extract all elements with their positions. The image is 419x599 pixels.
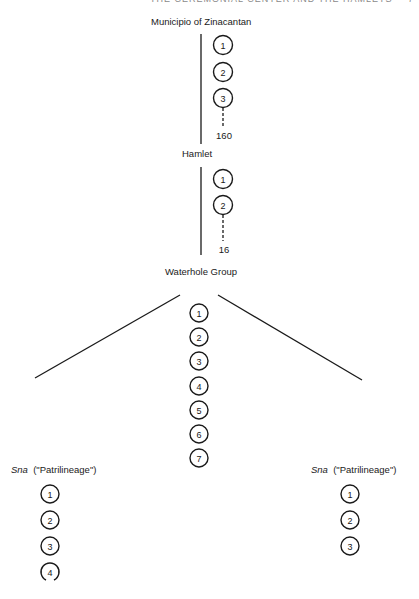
svg-text:1: 1 [196, 309, 201, 319]
unit-circle: 2 [190, 328, 208, 346]
sna-right-units: 1 2 3 [341, 485, 359, 555]
branch-right-line [218, 295, 362, 380]
unit-circle: 3 [41, 537, 59, 555]
unit-circle: 5 [190, 401, 208, 419]
svg-text:2: 2 [220, 201, 225, 211]
svg-text:2: 2 [47, 516, 52, 526]
kinship-hierarchy-diagram: 1 2 3 160 1 2 16 1 2 3 4 5 6 7 1 2 3 4 1… [0, 0, 419, 599]
unit-circle: 1 [214, 170, 233, 189]
hamlet-units: 1 2 16 [214, 170, 233, 256]
svg-text:7: 7 [196, 454, 201, 464]
svg-text:1: 1 [347, 490, 352, 500]
svg-text:3: 3 [347, 542, 352, 552]
unit-circle: 1 [214, 36, 233, 55]
svg-text:1: 1 [220, 41, 225, 51]
unit-circle: 3 [341, 537, 359, 555]
municipio-total: 160 [216, 130, 232, 141]
svg-text:3: 3 [196, 357, 201, 367]
unit-circle: 2 [214, 196, 233, 215]
unit-circle: 1 [341, 485, 359, 503]
unit-circle: 7 [190, 449, 208, 467]
svg-text:3: 3 [220, 94, 225, 104]
svg-text:2: 2 [196, 333, 201, 343]
unit-circle: 1 [190, 304, 208, 322]
hamlet-total: 16 [219, 244, 230, 255]
sna-left-units: 1 2 3 4 [41, 485, 59, 580]
unit-circle: 1 [41, 485, 59, 503]
unit-circle: 2 [341, 511, 359, 529]
unit-circle: 4 [41, 563, 59, 580]
svg-text:3: 3 [47, 542, 52, 552]
svg-text:2: 2 [347, 516, 352, 526]
svg-text:4: 4 [47, 568, 52, 578]
unit-circle: 3 [214, 89, 233, 108]
svg-text:4: 4 [196, 382, 201, 392]
svg-text:2: 2 [220, 68, 225, 78]
unit-circle: 3 [190, 352, 208, 370]
unit-circle: 2 [41, 511, 59, 529]
unit-circle: 6 [190, 425, 208, 443]
svg-text:1: 1 [47, 490, 52, 500]
branch-left-line [35, 295, 180, 378]
unit-circle: 4 [190, 377, 208, 395]
unit-circle: 2 [214, 63, 233, 82]
svg-text:5: 5 [196, 406, 201, 416]
svg-text:6: 6 [196, 430, 201, 440]
svg-text:1: 1 [220, 175, 225, 185]
waterhole-units: 1 2 3 4 5 6 7 [190, 304, 208, 467]
